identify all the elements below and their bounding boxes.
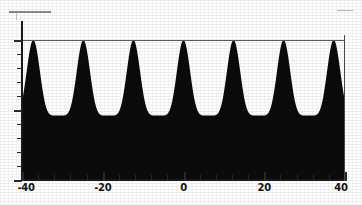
x-tick-minor <box>135 175 136 180</box>
x-tick-major <box>264 172 266 181</box>
series-oscillation-area <box>22 40 345 180</box>
x-tick-label: -20 <box>94 182 111 193</box>
y-tick-minor <box>17 124 22 125</box>
x-tick-minor <box>87 175 88 180</box>
y-tick-minor <box>17 68 22 69</box>
x-tick-minor <box>297 175 298 180</box>
x-tick-minor <box>248 175 249 180</box>
x-tick-label: -40 <box>17 182 34 193</box>
x-tick-minor <box>54 175 55 180</box>
y-tick-minor <box>17 96 22 97</box>
right-spine <box>344 35 345 181</box>
area-curve-svg <box>22 21 345 180</box>
x-tick-minor <box>329 175 330 180</box>
figure-canvas: -40-2002040 <box>0 0 362 205</box>
top-rule-right-mark <box>337 10 353 11</box>
x-tick-minor <box>119 175 120 180</box>
x-tick-minor <box>232 175 233 180</box>
x-tick-major <box>22 172 24 181</box>
x-tick-minor <box>200 175 201 180</box>
y-tick-minor <box>17 166 22 167</box>
y-tick-major <box>14 40 22 42</box>
x-tick-label-group: -40-2002040 <box>0 182 362 204</box>
x-tick-minor <box>151 175 152 180</box>
y-tick-minor <box>17 138 22 139</box>
top-tick-left-mark <box>16 13 17 20</box>
plot-area <box>22 21 345 180</box>
x-tick-minor <box>216 175 217 180</box>
x-tick-minor <box>313 175 314 180</box>
y-axis <box>21 21 23 181</box>
peak-envelope-line <box>22 40 345 41</box>
x-tick-minor <box>70 175 71 180</box>
x-tick-label: 0 <box>180 182 187 193</box>
y-tick-major <box>14 110 22 112</box>
y-tick-minor <box>17 152 22 153</box>
x-tick-major <box>103 172 105 181</box>
x-tick-minor <box>280 175 281 180</box>
x-tick-minor <box>167 175 168 180</box>
x-tick-minor <box>38 175 39 180</box>
y-tick-minor <box>17 54 22 55</box>
x-tick-major <box>184 172 186 181</box>
x-tick-label: 20 <box>258 182 271 193</box>
y-tick-minor <box>17 82 22 83</box>
x-tick-label: 40 <box>334 182 347 193</box>
x-tick-major <box>345 172 347 181</box>
